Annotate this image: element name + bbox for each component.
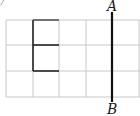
label-b: B bbox=[107, 102, 117, 116]
grid bbox=[6, 20, 140, 97]
grid-diagram bbox=[0, 0, 140, 116]
label-a: A bbox=[107, 0, 117, 13]
bold-shape bbox=[33, 20, 59, 71]
corner-fragment: / bbox=[1, 0, 4, 7]
